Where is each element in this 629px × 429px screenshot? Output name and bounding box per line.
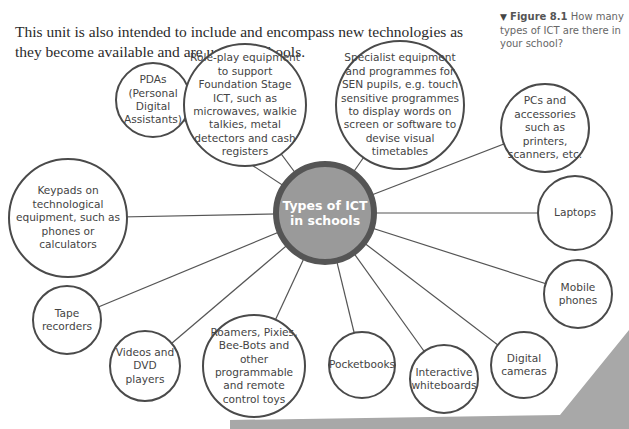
node-label: Videos and DVD players bbox=[111, 346, 179, 386]
node-roamers: Roamers, Pixies, Bee-Bots and other prog… bbox=[202, 314, 306, 418]
node-label: Interactive whiteboards bbox=[409, 366, 478, 393]
node-pdas: PDAs (Personal Digital Assistants) bbox=[115, 62, 191, 138]
node-label: PCs and accessories such as printers, sc… bbox=[502, 94, 588, 161]
node-label: Tape recorders bbox=[34, 307, 100, 334]
node-specialist: Specialist equipment and programmes for … bbox=[335, 40, 465, 170]
node-label: PDAs (Personal Digital Assistants) bbox=[117, 73, 189, 127]
node-mobile: Mobile phones bbox=[543, 259, 613, 329]
center-label: Types of ICT in schools bbox=[279, 198, 371, 228]
node-label: Laptops bbox=[552, 206, 598, 219]
node-pocketbooks: Pocketbooks bbox=[328, 331, 396, 399]
node-label: Mobile phones bbox=[545, 281, 611, 308]
node-digital: Digital cameras bbox=[490, 331, 558, 399]
node-videos: Videos and DVD players bbox=[109, 330, 181, 402]
node-label: Role-play equipment to support Foundatio… bbox=[185, 51, 305, 158]
node-label: Roamers, Pixies, Bee-Bots and other prog… bbox=[204, 326, 304, 406]
node-label: Pocketbooks bbox=[327, 358, 397, 371]
node-interactive: Interactive whiteboards bbox=[409, 344, 479, 414]
node-laptops: Laptops bbox=[537, 175, 613, 251]
node-pcs: PCs and accessories such as printers, sc… bbox=[500, 83, 590, 173]
center-node: Types of ICT in schools bbox=[273, 161, 377, 265]
node-label: Digital cameras bbox=[492, 352, 556, 379]
node-label: Specialist equipment and programmes for … bbox=[337, 51, 463, 158]
node-tape: Tape recorders bbox=[32, 285, 102, 355]
node-keypads: Keypads on technological equipment, such… bbox=[8, 158, 128, 278]
node-role-play: Role-play equipment to support Foundatio… bbox=[183, 43, 307, 167]
node-label: Keypads on technological equipment, such… bbox=[10, 184, 126, 251]
